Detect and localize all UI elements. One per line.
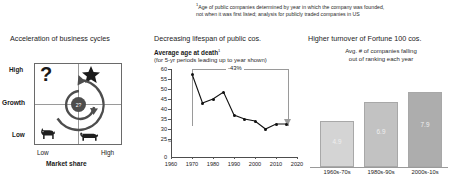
panel-lifespan: Decreasing lifespan of public cos. Avera… <box>150 30 302 189</box>
growth-axis-label: Growth <box>2 99 25 106</box>
market-share-axis-label: Market share <box>46 160 87 167</box>
lifespan-subtitle: Average age at death1 <box>154 48 220 56</box>
data-point <box>285 123 288 126</box>
turnover-subtitle: Avg. # of companies falling out of ranki… <box>320 47 442 63</box>
lifespan-subtitle-text: Average age at death <box>154 49 218 56</box>
panel-left-title: Acceleration of business cycles <box>10 34 110 43</box>
lifespan-subtitle-marker: 1 <box>218 48 220 53</box>
data-point <box>264 128 267 131</box>
share-high-label: High <box>101 149 114 156</box>
bar-chart: 4.9 6.9 7.9 1960s-70s 1980s-90s 2000s-10… <box>308 66 450 182</box>
data-point <box>233 114 236 117</box>
bar-category-label: 1980s-90s <box>358 169 404 175</box>
data-point <box>201 102 204 105</box>
panel-middle-title: Decreasing lifespan of public cos. <box>154 34 261 43</box>
bar-value-label: 7.9 <box>408 121 442 128</box>
turnover-subtitle-line-2: out of ranking each year <box>349 56 413 62</box>
bcg-matrix: ? <box>34 63 122 145</box>
footnote-line-2: not when it was first listed; analysis f… <box>196 11 360 17</box>
data-point <box>275 123 278 126</box>
growth-high-label: High <box>9 66 23 73</box>
panels-row: Acceleration of business cycles High Low… <box>0 30 456 189</box>
data-point <box>212 98 215 101</box>
data-point <box>222 91 225 94</box>
bar-2000s-10s <box>408 92 442 167</box>
data-point <box>243 118 246 121</box>
panel-right-title: Higher turnover of Fortune 100 cos. <box>308 34 421 43</box>
data-point <box>254 120 257 123</box>
turnover-subtitle-line-1: Avg. # of companies falling <box>345 48 417 54</box>
share-low-label: Low <box>37 149 49 156</box>
bar-chart-baseline <box>310 167 448 168</box>
lifespan-series <box>154 65 300 183</box>
cycle-hub-label: 2? <box>71 97 86 112</box>
growth-low-label: Low <box>12 131 25 138</box>
panel-business-cycles: Acceleration of business cycles High Low… <box>0 30 150 189</box>
lifespan-note: (for 5-yr periods leading up to year sho… <box>154 57 267 63</box>
data-point <box>191 73 194 76</box>
bar-category-label: 2000s-10s <box>402 169 448 175</box>
panel-fortune-turnover: Higher turnover of Fortune 100 cos. Avg.… <box>302 30 456 189</box>
source-footnote: 1Age of public companies determined by y… <box>196 1 454 18</box>
bar-value-label: 6.9 <box>364 128 398 135</box>
line-chart: ≈ 60 55 50 45 40 35 30 25 0 <box>154 65 300 183</box>
bar-category-label: 1960s-70s <box>314 169 360 175</box>
footnote-line-1: Age of public companies determined by ye… <box>198 4 384 10</box>
bar-value-label: 4.9 <box>320 138 354 145</box>
